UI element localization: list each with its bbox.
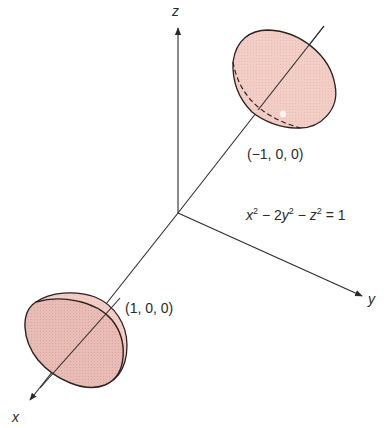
z-axis-label: z	[171, 3, 179, 19]
upper-sheet	[233, 30, 336, 128]
y-axis	[178, 213, 362, 296]
equation-label: x2 − 2y2 − z2 = 1	[245, 206, 346, 223]
upper-vertex-label: (−1, 0, 0)	[247, 146, 303, 162]
x-axis-label: x	[11, 409, 20, 425]
hyperboloid-diagram: z y x (−1, 0, 0) (1, 0, 0) x2 − 2y2 − z2…	[0, 0, 388, 428]
y-axis-label: y	[367, 291, 376, 307]
lower-vertex-label: (1, 0, 0)	[125, 300, 173, 316]
